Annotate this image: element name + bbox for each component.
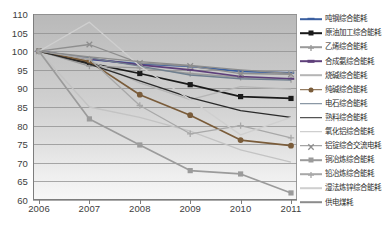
legend-item-label: 烧碱综合能耗 [325,72,367,80]
data-point-marker [87,116,92,121]
x-tick-label: 2007 [79,203,101,214]
legend-item-label: 氧化铝综合能耗 [325,128,374,136]
y-tick-label: 60 [17,195,28,206]
y-tick-label: 75 [17,139,28,150]
legend-item-4[interactable]: 合成氨综合能耗 [300,54,374,68]
y-tick-label: 65 [17,176,28,187]
data-point-marker [137,71,142,76]
legend-item-12[interactable]: 铅冶炼综合能耗 [300,167,374,181]
data-point-marker [288,96,293,101]
legend-swatch-icon [300,112,322,124]
legend-item-label: 铜冶炼综合能耗 [325,156,374,164]
data-point-marker [238,137,244,143]
legend-item-label: 熟料综合能耗 [325,114,367,122]
legend-swatch-icon [300,196,322,208]
data-point-marker [188,82,193,87]
legend-item-label: 吨钢综合能耗 [325,15,367,23]
data-point-marker [237,122,243,128]
line-chart: 6065707580859095100105110 20062007200820… [0,0,391,229]
legend-item-8[interactable]: 熟料综合能耗 [300,111,367,125]
legend-swatch-icon [300,140,322,152]
gridline [33,200,297,201]
series-line [39,51,291,117]
y-tick-label: 105 [12,27,28,38]
y-tick-label: 85 [17,102,28,113]
legend-item-label: 纯碱综合能耗 [325,86,367,94]
data-point-marker [288,190,293,195]
legend-swatch-icon [300,84,322,96]
legend-item-label: 电石综合能耗 [325,100,367,108]
y-tick-label: 80 [17,120,28,131]
legend-swatch-icon [300,168,322,180]
legend-item-3[interactable]: 乙烯综合能耗 [300,40,367,54]
legend-swatch-icon [300,98,322,110]
series-layer [33,14,297,200]
legend-item-7[interactable]: 电石综合能耗 [300,97,367,111]
data-point-marker [238,171,243,176]
legend-item-label: 铅冶炼综合能耗 [325,170,374,178]
chart-legend: 吨钢综合能耗原油加工综合能耗乙烯综合能耗合成氨综合能耗烧碱综合能耗纯碱综合能耗电… [300,12,391,212]
data-point-marker [288,143,294,149]
data-point-marker [238,94,243,99]
y-tick-label: 90 [17,83,28,94]
x-tick-label: 2011 [281,203,302,214]
series-熟料综合能耗 [39,51,291,117]
legend-item-label: 铝锭综合交流电耗 [325,142,381,150]
y-tick-label: 70 [17,157,28,168]
x-tick-label: 2008 [129,203,151,214]
legend-item-label: 供电煤耗 [325,199,353,207]
data-point-marker [137,92,143,98]
data-point-marker [187,112,193,118]
legend-item-5[interactable]: 烧碱综合能耗 [300,68,367,82]
y-tick-label: 95 [17,64,28,75]
legend-item-6[interactable]: 纯碱综合能耗 [300,83,367,97]
x-tick-label: 2006 [28,203,50,214]
plot-area [33,14,297,200]
data-point-marker [137,142,142,147]
legend-swatch-icon [300,182,322,194]
legend-swatch-icon [300,55,322,67]
y-tick-label: 100 [12,46,28,57]
x-tick-label: 2009 [179,203,201,214]
legend-item-label: 湿法炼锌综合能耗 [325,184,381,192]
data-point-marker [288,135,294,141]
legend-item-label: 原油加工综合能耗 [325,29,381,37]
x-tick-label: 2010 [230,203,252,214]
x-axis-labels: 200620072008200920102011 [33,203,297,221]
legend-swatch-icon [300,13,322,25]
legend-item-label: 合成氨综合能耗 [325,58,374,66]
legend-item-label: 乙烯综合能耗 [325,43,367,51]
legend-swatch-icon [300,41,322,53]
legend-item-13[interactable]: 湿法炼锌综合能耗 [300,181,381,195]
legend-item-1[interactable]: 吨钢综合能耗 [300,12,367,26]
legend-item-14[interactable]: 供电煤耗 [300,195,353,209]
legend-swatch-icon [300,69,322,81]
y-tick-label: 110 [13,9,28,20]
data-point-marker [188,168,193,173]
legend-item-10[interactable]: 铝锭综合交流电耗 [300,139,381,153]
y-axis-labels: 6065707580859095100105110 [0,14,31,200]
